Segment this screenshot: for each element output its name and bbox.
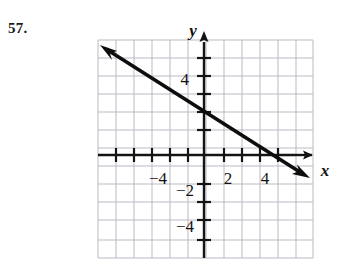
ytick-label-neg4: −4 — [176, 217, 195, 236]
grid-lines — [98, 40, 313, 258]
y-axis-label: y — [187, 21, 197, 40]
xtick-label-neg4: −4 — [149, 169, 168, 188]
x-axis-label: x — [320, 161, 330, 180]
y-axis — [200, 31, 209, 258]
coordinate-plane-figure: −4 2 4 4 −2 −4 y x — [0, 0, 337, 272]
ytick-label-neg2: −2 — [176, 181, 194, 200]
xtick-label-4: 4 — [261, 169, 270, 188]
ytick-label-4: 4 — [181, 70, 190, 89]
xtick-label-2: 2 — [224, 169, 233, 188]
figure-page: 57. — [0, 0, 337, 272]
